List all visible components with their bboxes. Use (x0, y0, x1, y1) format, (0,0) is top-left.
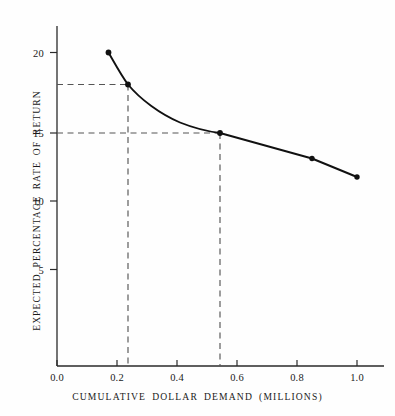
chart-figure: 20 15 10 5 0.0 0.2 0.4 0.6 0.8 1.0 CUMUL… (0, 0, 395, 416)
data-point (125, 82, 131, 88)
data-point-markers (106, 50, 360, 180)
y-axis-ticks (50, 53, 57, 270)
x-tick-label-0p8: 0.8 (290, 372, 304, 383)
plot-area (0, 0, 395, 416)
data-point (309, 156, 314, 161)
y-axis-title: EXPECTED PERCENTAGE RATE OF RETURN (31, 61, 42, 361)
x-tick-label-0p4: 0.4 (170, 372, 184, 383)
data-point (106, 50, 112, 56)
x-tick-label-0p0: 0.0 (50, 372, 64, 383)
x-axis-ticks (57, 360, 357, 366)
guide-lines (57, 85, 220, 367)
data-point (354, 174, 359, 179)
x-tick-label-1p0: 1.0 (350, 372, 364, 383)
data-curve (109, 53, 358, 178)
y-tick-label-20: 20 (14, 47, 44, 58)
x-tick-label-0p6: 0.6 (230, 372, 244, 383)
data-point (217, 130, 223, 136)
x-tick-label-0p2: 0.2 (110, 372, 124, 383)
x-axis-title: CUMULATIVE DOLLAR DEMAND (MILLIONS) (0, 391, 395, 402)
